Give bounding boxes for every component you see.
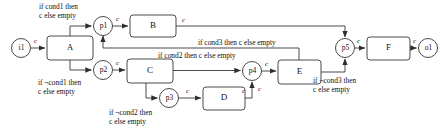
box-label-f: F — [367, 43, 410, 52]
edge-b-p5 — [176, 26, 345, 37]
edge-label-c: c — [116, 16, 119, 23]
edge-label-c: c — [34, 38, 37, 45]
edge-c-p3 — [146, 83, 158, 98]
edge-label-c: c — [182, 17, 185, 24]
guard-not-cond1-line-2: c else empty — [38, 87, 81, 96]
box-label-c: C — [127, 66, 173, 75]
box-label-d: D — [203, 93, 245, 102]
place-label-p3: p3 — [162, 94, 177, 102]
guard-not-cond2: if ¬cond2 then c else empty — [109, 108, 152, 127]
guard-not-cond2-line-1: if ¬cond2 then — [109, 108, 152, 117]
box-label-b: B — [130, 21, 176, 30]
place-label-p4: p4 — [245, 67, 260, 75]
guard-not-cond3: if ¬cond3 then c else empty — [313, 76, 356, 95]
box-label-a: A — [47, 43, 93, 52]
edge-a-p2 — [70, 60, 92, 70]
edge-label-c: c — [258, 86, 261, 93]
guard-cond1: if cond1 then c else empty — [39, 2, 78, 21]
edge-label-c: c — [265, 61, 268, 68]
guard-cond2-line-1: if cond2 then c else empty — [158, 51, 236, 60]
guard-not-cond1-line-1: if ¬cond1 then — [38, 78, 81, 87]
guard-cond1-line-2: c else empty — [39, 11, 78, 20]
edge-label-c: c — [116, 60, 119, 67]
guard-cond3-line-1: if cond3 then c else empty — [198, 38, 276, 47]
place-label-i1: i1 — [14, 44, 29, 52]
place-label-p2: p2 — [96, 66, 111, 74]
edge-label-c: c — [413, 38, 416, 45]
box-label-e: E — [278, 67, 321, 76]
place-label-p1: p1 — [96, 22, 111, 30]
place-label-p5: p5 — [338, 44, 353, 52]
edge-label-c: c — [186, 88, 189, 95]
edge-d-p4 — [245, 82, 252, 98]
guard-not-cond3-line-1: if ¬cond3 then — [313, 76, 356, 85]
guard-not-cond3-line-2: c else empty — [313, 85, 356, 94]
process-diagram: i1 p1 p2 p3 p4 p5 o1 A B C D E F c c c c… — [0, 0, 447, 129]
guard-not-cond1: if ¬cond1 then c else empty — [38, 78, 81, 97]
place-label-o1: o1 — [421, 44, 436, 52]
guard-cond1-line-1: if cond1 then — [39, 2, 78, 11]
guard-not-cond2-line-2: c else empty — [109, 117, 152, 126]
edge-a-p1 — [70, 26, 92, 36]
edge-label-c: c — [357, 38, 360, 45]
guard-cond2: if cond2 then c else empty — [158, 51, 236, 60]
edge-label-c: c — [242, 88, 245, 95]
guard-cond3: if cond3 then c else empty — [198, 38, 276, 47]
edge-e-p5 — [321, 59, 345, 72]
